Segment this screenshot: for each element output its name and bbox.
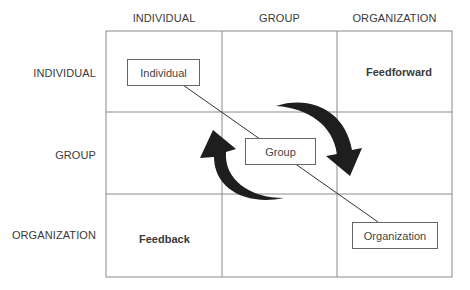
column-header-individual: INDIVIDUAL [106, 12, 222, 24]
row-header-individual: INDIVIDUAL [33, 67, 96, 79]
column-header-organization: ORGANIZATION [337, 12, 452, 24]
group-box: Group [245, 138, 316, 165]
row-header-organization: ORGANIZATION [12, 229, 96, 241]
feedforward-label: Feedforward [366, 66, 432, 78]
individual-box: Individual [127, 59, 200, 86]
feedback-label: Feedback [139, 233, 190, 245]
organization-box: Organization [352, 222, 438, 249]
row-header-group: GROUP [55, 149, 96, 161]
column-header-group: GROUP [222, 12, 337, 24]
